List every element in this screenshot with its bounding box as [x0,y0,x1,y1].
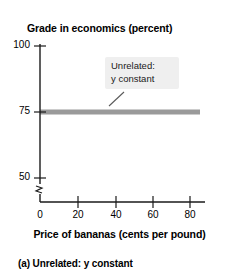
y-tick-label-75: 75 [0,105,30,116]
annotation-line-2: y constant [111,73,173,86]
x-tick-label-40: 40 [103,209,129,220]
x-axis-title: Price of bananas (cents per pound) [0,228,239,240]
y-tick-label-50: 50 [0,171,30,182]
figure-panel: Grade in economics (percent) 100 75 50 0… [0,0,239,280]
annotation-line-1: Unrelated: [111,60,173,73]
figure-caption: (a) Unrelated: y constant [18,258,133,269]
callout-leader-line [109,92,124,106]
x-tick-label-60: 60 [140,209,166,220]
x-tick-label-80: 80 [177,209,203,220]
x-tick-label-0: 0 [27,209,53,220]
annotation-callout: Unrelated: y constant [105,57,179,89]
y-axis-break-icon [36,186,42,193]
y-tick-label-100: 100 [0,39,30,50]
x-tick-label-20: 20 [65,209,91,220]
